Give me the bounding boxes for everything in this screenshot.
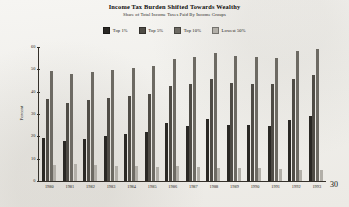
x-axis-tick-label: 1986 [162, 184, 183, 189]
bar [288, 120, 291, 181]
bar-group [60, 44, 81, 181]
x-axis-tick-label: 1982 [80, 184, 101, 189]
bar [115, 166, 118, 181]
bar [296, 51, 299, 181]
y-axis-tick [37, 92, 41, 93]
bar [258, 168, 261, 181]
bar [42, 138, 45, 181]
x-axis-tick-label: 1987 [183, 184, 204, 189]
bar [70, 74, 73, 181]
bar-group [80, 44, 101, 181]
bar [91, 72, 94, 181]
page-number: 30 [330, 180, 338, 189]
x-axis-tick-label: 1993 [307, 184, 328, 189]
legend-item-3: Lowest 50% [212, 27, 246, 34]
y-axis-tick [37, 136, 41, 137]
bar [66, 103, 69, 181]
bar [214, 53, 217, 181]
bar [124, 134, 127, 181]
bar-group [265, 44, 286, 181]
chart-header: Income Tax Burden Shifted Towards Wealth… [0, 3, 349, 18]
y-axis-tick [37, 159, 41, 160]
x-axis-tick-label: 1991 [265, 184, 286, 189]
bar-group [203, 44, 224, 181]
legend-swatch-icon [174, 27, 181, 34]
bar-group [306, 44, 327, 181]
bar [193, 57, 196, 181]
bar [234, 56, 237, 181]
y-axis-tick-label: 10 [31, 156, 35, 160]
bar [189, 84, 192, 181]
bar [145, 132, 148, 181]
bar [230, 83, 233, 181]
x-axis-tick-label: 1981 [60, 184, 81, 189]
y-axis-tick-label: 40 [31, 89, 35, 93]
legend-item-1: Top 5% [139, 27, 163, 34]
y-axis-tick-label: 50 [31, 67, 35, 71]
legend-label: Top 10% [184, 28, 201, 33]
bar [104, 136, 107, 181]
legend-label: Lowest 50% [222, 28, 246, 33]
bar-group [162, 44, 183, 181]
bar [309, 116, 312, 181]
bar [316, 49, 319, 181]
bar-series-container [39, 44, 326, 181]
chart-subtitle: Share of Total Income Taxes Paid By Inco… [0, 11, 349, 18]
bar [74, 164, 77, 181]
y-axis-tick [37, 69, 41, 70]
bar [312, 75, 315, 181]
bar-group [121, 44, 142, 181]
bar [46, 99, 49, 181]
y-axis-tick-label: 0 [33, 179, 35, 183]
bar [268, 126, 271, 181]
x-axis-line [38, 181, 326, 182]
bar [292, 79, 295, 182]
bar [87, 100, 90, 181]
bar [210, 79, 213, 181]
page-title: Income Tax Burden Shifted Towards Wealth… [0, 3, 349, 11]
y-axis-tick [37, 181, 41, 182]
bar-group [39, 44, 60, 181]
legend-swatch-icon [212, 27, 219, 34]
x-axis-tick-label: 1985 [142, 184, 163, 189]
y-axis-tick-label: 30 [31, 112, 35, 116]
legend-swatch-icon [139, 27, 146, 34]
bar [156, 167, 159, 181]
bar [169, 86, 172, 181]
bar [111, 70, 114, 181]
bar [186, 126, 189, 181]
bar-group [183, 44, 204, 181]
bar [148, 94, 151, 181]
bar [271, 84, 274, 181]
x-axis-tick-label: 1984 [121, 184, 142, 189]
x-axis-labels: 1980198119821983198419851986198719881989… [39, 184, 327, 189]
legend-label: Top 5% [148, 28, 163, 33]
bar [152, 66, 155, 181]
x-axis-tick-label: 1988 [204, 184, 225, 189]
bar [135, 166, 138, 181]
bar [50, 71, 53, 181]
bar [217, 168, 220, 181]
y-axis-title: Percent [19, 106, 24, 121]
bar-group [101, 44, 122, 181]
legend-item-0: Top 1% [103, 27, 127, 34]
bar [275, 58, 278, 182]
y-axis-tick-label: 60 [31, 45, 35, 49]
bar [251, 84, 254, 181]
x-axis-tick-label: 1989 [224, 184, 245, 189]
chart-legend: Top 1%Top 5%Top 10%Lowest 50% [0, 27, 349, 34]
bar [320, 170, 323, 181]
x-axis-tick-label: 1983 [101, 184, 122, 189]
bar [63, 141, 66, 181]
legend-swatch-icon [103, 27, 110, 34]
x-axis-tick-label: 1980 [39, 184, 60, 189]
bar [197, 167, 200, 181]
bar [279, 169, 282, 181]
bar-group [142, 44, 163, 181]
bar [53, 165, 56, 181]
bar [94, 165, 97, 181]
x-axis-tick-label: 1992 [286, 184, 307, 189]
bar [83, 139, 86, 181]
plot-area: Percent 6050403020100 [38, 44, 326, 182]
bar [128, 96, 131, 181]
